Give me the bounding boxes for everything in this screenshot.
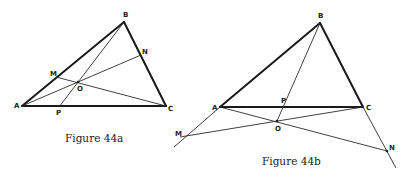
- side-bc: [124, 22, 166, 106]
- label-o: O: [275, 125, 281, 133]
- label-n: N: [142, 48, 148, 56]
- point-o: [276, 120, 279, 123]
- cevian-an: [220, 107, 387, 151]
- cevian-bp: [59, 22, 124, 107]
- figure-caption: Figure 44b: [262, 155, 321, 167]
- cevian-cm: [180, 107, 363, 137]
- side-bc: [320, 23, 363, 107]
- label-c: C: [366, 104, 371, 112]
- point-n: [386, 150, 389, 153]
- cevian-cm: [56, 77, 166, 106]
- label-p: P: [281, 97, 286, 105]
- label-n: N: [389, 144, 395, 152]
- label-a: A: [14, 102, 20, 110]
- point-o: [77, 81, 80, 84]
- figure-44a: A B C M N O P Figure 44a: [14, 11, 173, 144]
- label-p: P: [56, 109, 61, 117]
- label-m: M: [50, 70, 57, 78]
- label-b: B: [123, 11, 128, 19]
- diagram-canvas: A B C M N O P Figure 44a A B C M N O P F…: [0, 0, 410, 177]
- figure-44b: A B C M N O P Figure 44b: [174, 12, 396, 168]
- label-b: B: [318, 12, 323, 20]
- label-c: C: [168, 105, 173, 113]
- label-o: O: [77, 85, 83, 93]
- line-am-extension: [174, 107, 220, 147]
- line-bc-extension: [363, 107, 396, 168]
- label-m: M: [175, 130, 182, 138]
- figure-caption: Figure 44a: [65, 132, 123, 144]
- side-ab: [220, 23, 320, 107]
- cevian-an: [22, 55, 141, 106]
- side-ab: [22, 22, 124, 106]
- label-a: A: [212, 104, 218, 112]
